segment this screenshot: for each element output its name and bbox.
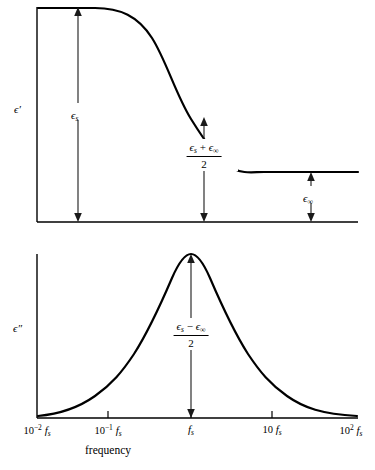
fraction-denominator: 2 — [174, 336, 209, 349]
subscript-infinity: ∞ — [200, 325, 205, 334]
prime-glyph: ′ — [18, 103, 20, 115]
x-tick-label-1e-2: 10−2 fs — [23, 424, 50, 437]
epsilon-infinity-label: ϵ∞ — [303, 189, 313, 205]
subscript-s: s — [119, 429, 122, 438]
panel-real-permittivity: ϵ′ ϵs ϵs + ϵ∞ 2 ϵ∞ — [0, 0, 375, 235]
subscript-s: s — [279, 428, 282, 437]
x-tick-label-1e2: 102 fs — [340, 424, 363, 437]
x-tick-label-10fs: 10 fs — [262, 424, 281, 436]
fraction-numerator: ϵs − ϵ∞ — [174, 320, 209, 336]
subscript-s: s — [191, 428, 194, 437]
x-tick-label-1e-1: 10−1 fs — [94, 424, 121, 437]
double-prime-glyph: ″ — [17, 322, 22, 334]
mantissa: 10 — [23, 425, 34, 436]
subscript-s: s — [360, 429, 363, 438]
subscript-s: s — [48, 429, 51, 438]
x-axis-label-frequency: frequency — [85, 445, 131, 457]
epsilon-s-label: ϵs — [71, 106, 78, 122]
fraction-denominator: 2 — [187, 157, 222, 170]
subscript-s: s — [75, 114, 78, 123]
dielectric-loss-svg — [0, 248, 375, 470]
epsilon-difference-fraction: ϵs − ϵ∞ 2 — [174, 320, 209, 349]
mantissa: 10 — [94, 425, 105, 436]
y-axis-label-epsilon-prime: ϵ′ — [14, 104, 21, 115]
subscript-infinity: ∞ — [307, 197, 312, 206]
mantissa: 10 — [262, 424, 273, 435]
figure-container: ϵ′ ϵs ϵs + ϵ∞ 2 ϵ∞ — [0, 0, 375, 470]
mantissa: 10 — [340, 425, 351, 436]
fraction-numerator: ϵs + ϵ∞ — [187, 141, 222, 157]
subscript-infinity: ∞ — [213, 146, 218, 155]
y-axis-label-epsilon-double-prime: ϵ″ — [13, 323, 22, 334]
epsilon-midpoint-fraction: ϵs + ϵ∞ 2 — [187, 141, 222, 170]
x-tick-label-fs: fs — [188, 424, 194, 436]
panel-dielectric-loss: ϵ″ ϵs − ϵ∞ 2 10−2 fs 10−1 fs fs 10 fs 10… — [0, 248, 375, 470]
